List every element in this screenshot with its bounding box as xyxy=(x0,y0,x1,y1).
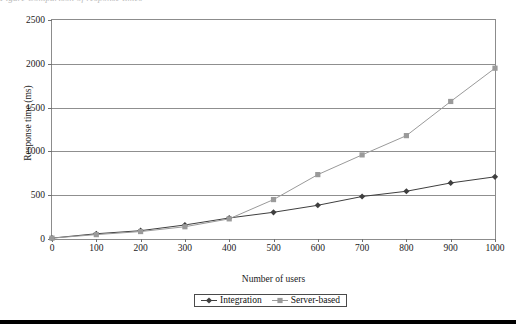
legend-entry: Server-based xyxy=(272,295,340,305)
series-layer xyxy=(52,20,495,239)
y-tick-label: 1500 xyxy=(0,103,52,113)
plot-area: 0500100015002000250001002003004005006007… xyxy=(51,19,496,240)
y-tick-label: 2000 xyxy=(0,59,52,69)
series-integration xyxy=(49,174,498,242)
data-point-marker xyxy=(404,133,409,138)
data-point-marker xyxy=(138,229,143,234)
data-point-marker xyxy=(270,209,276,215)
diamond-marker-icon xyxy=(201,296,217,305)
data-point-marker xyxy=(448,180,454,186)
data-point-marker xyxy=(315,172,320,177)
legend-label: Server-based xyxy=(291,295,340,305)
data-point-marker xyxy=(448,99,453,104)
bottom-rule xyxy=(0,320,516,324)
y-tick-label: 2500 xyxy=(0,15,52,25)
data-point-marker xyxy=(49,236,54,241)
plot-inner: 0500100015002000250001002003004005006007… xyxy=(52,20,495,239)
data-point-marker xyxy=(360,152,365,157)
legend-label: Integration xyxy=(220,295,262,305)
data-point-marker xyxy=(492,174,498,180)
series-line xyxy=(52,177,495,238)
square-marker-icon xyxy=(272,296,288,305)
data-point-marker xyxy=(227,216,232,221)
y-tick-label: 1000 xyxy=(0,146,52,156)
data-point-marker xyxy=(403,188,409,194)
x-tick-label: 1000 xyxy=(465,239,516,253)
data-point-marker xyxy=(94,232,99,237)
chart-legend: IntegrationServer-based xyxy=(194,294,347,307)
data-point-marker xyxy=(359,193,365,199)
data-point-marker xyxy=(271,197,276,202)
x-axis-title: Number of users xyxy=(51,274,496,284)
data-point-marker xyxy=(182,224,187,229)
y-tick-label: 500 xyxy=(0,190,52,200)
legend-entry: Integration xyxy=(201,295,262,305)
data-point-marker xyxy=(492,66,497,71)
data-point-marker xyxy=(315,202,321,208)
chart-figure: Response time (ms) 050010001500200025000… xyxy=(0,0,516,328)
